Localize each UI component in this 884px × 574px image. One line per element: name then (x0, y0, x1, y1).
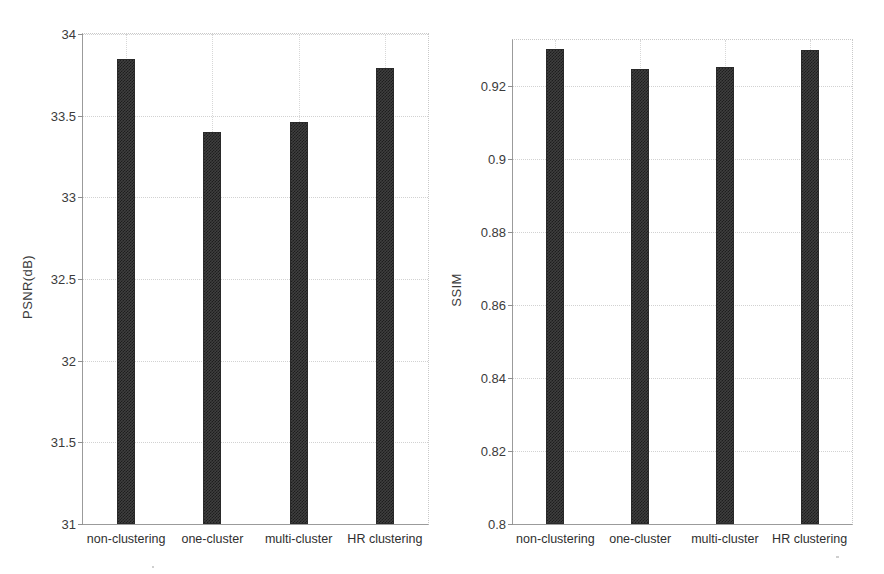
gridline-y (83, 34, 428, 35)
scan-artifact (152, 566, 154, 568)
y-tick-label: 0.82 (481, 444, 506, 457)
bar (801, 50, 819, 524)
y-tick-label: 0.84 (481, 371, 506, 384)
y-tick-mark (78, 34, 83, 35)
y-tick-mark (78, 197, 83, 198)
ssim-axis-title: SSIM (449, 273, 464, 306)
x-tick-label: multi-cluster (691, 533, 758, 546)
y-tick-label: 32.5 (51, 273, 76, 286)
y-tick-label: 34 (62, 28, 76, 41)
x-tick-label: HR clustering (772, 533, 847, 546)
ssim-plot-area: 0.80.820.840.860.880.90.92non-clustering… (512, 39, 853, 525)
x-tick-label: HR clustering (347, 533, 422, 546)
psnr-axis-title: PSNR(dB) (20, 255, 35, 319)
y-tick-label: 31.5 (51, 436, 76, 449)
y-tick-mark (508, 524, 513, 525)
bar (716, 67, 734, 524)
x-tick-label: non-clustering (516, 533, 595, 546)
psnr-plot-area: 3131.53232.53333.534non-clusteringone-cl… (82, 33, 429, 525)
y-tick-mark (78, 279, 83, 280)
y-tick-mark (508, 232, 513, 233)
y-tick-mark (78, 524, 83, 525)
y-tick-mark (78, 116, 83, 117)
x-tick-label: multi-cluster (265, 533, 332, 546)
y-tick-mark (508, 451, 513, 452)
y-tick-label: 0.92 (481, 79, 506, 92)
psnr-panel: PSNR(dB) 3131.53232.53333.534non-cluster… (0, 0, 442, 574)
bar (376, 68, 394, 524)
y-tick-label: 0.9 (488, 152, 506, 165)
bar (546, 49, 564, 524)
ssim-panel: SSIM 0.80.820.840.860.880.90.92non-clust… (442, 0, 884, 574)
y-tick-label: 33.5 (51, 109, 76, 122)
bar (117, 59, 135, 525)
y-tick-mark (78, 442, 83, 443)
bar (203, 132, 221, 524)
figure-canvas: PSNR(dB) 3131.53232.53333.534non-cluster… (0, 0, 884, 574)
scan-artifact (836, 556, 839, 558)
y-tick-label: 32 (62, 354, 76, 367)
y-tick-label: 0.88 (481, 225, 506, 238)
y-tick-label: 31 (62, 518, 76, 531)
y-tick-mark (78, 361, 83, 362)
y-tick-mark (508, 305, 513, 306)
y-tick-mark (508, 159, 513, 160)
bar (631, 69, 649, 524)
x-tick-label: one-cluster (181, 533, 243, 546)
y-tick-label: 0.8 (488, 518, 506, 531)
y-tick-mark (508, 378, 513, 379)
y-tick-label: 0.86 (481, 298, 506, 311)
y-tick-mark (508, 86, 513, 87)
x-tick-label: one-cluster (609, 533, 671, 546)
x-tick-label: non-clustering (87, 533, 166, 546)
y-tick-label: 33 (62, 191, 76, 204)
bar (290, 122, 308, 524)
